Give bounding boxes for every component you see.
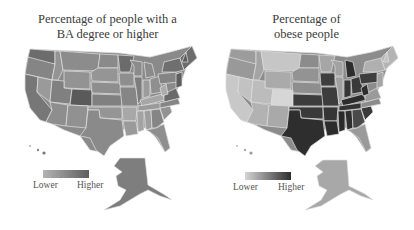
ba-legend-gradient [43,170,89,178]
obesity-legend-gradient [245,172,291,180]
ba-legend-low: Lower [33,180,58,190]
ba-legend-high: Higher [77,180,103,190]
alaska [104,158,172,210]
obesity-legend-high: Higher [278,182,304,192]
ba-degree-panel: Percentage of people with a BA degree or… [0,0,207,230]
alaska [305,160,373,210]
obesity-legend-low: Lower [233,182,258,192]
obesity-map [207,0,414,230]
obesity-panel: Percentage of obese people [207,0,414,230]
ba-degree-map [0,0,207,230]
